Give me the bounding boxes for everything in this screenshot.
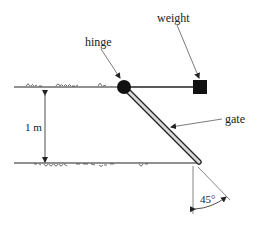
upper-ground-texture [26, 84, 106, 87]
lower-ground-texture [34, 164, 148, 167]
gate-diagram: 1 m hinge weight gate [0, 0, 259, 225]
hinge-label: hinge [85, 35, 112, 49]
weight-callout: weight [157, 11, 199, 78]
weight-label: weight [157, 11, 190, 25]
weight-block [193, 80, 207, 94]
gate-callout: gate [171, 112, 245, 127]
angle-annotation: 45° [193, 166, 230, 214]
lower-ground-surface [14, 163, 198, 167]
hinge-callout: hinge [85, 35, 120, 78]
gate-label: gate [225, 112, 245, 126]
height-dimension: 1 m [25, 95, 45, 162]
height-label: 1 m [25, 121, 42, 133]
hinge-icon [117, 80, 131, 94]
angle-label: 45° [200, 193, 215, 205]
upper-ground-surface [14, 84, 120, 88]
